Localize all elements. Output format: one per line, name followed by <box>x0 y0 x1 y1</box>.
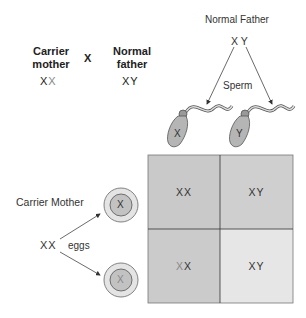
arrow-to-egg-1 <box>60 214 100 239</box>
cell3-b: X <box>184 260 192 272</box>
cell3-a: X <box>176 260 184 272</box>
cell1-a: X <box>176 186 184 198</box>
cell1-b: X <box>184 186 192 198</box>
cell4-b: Y <box>257 260 265 272</box>
mother-left-x2: X <box>48 239 56 251</box>
arrow-to-y-sperm <box>246 47 272 104</box>
punnett-cell-1: XX <box>148 155 220 229</box>
egg-1-label: X <box>117 199 124 210</box>
punnett-cell-3: XX <box>148 229 220 303</box>
cell4-a: X <box>248 260 256 272</box>
sperm-x-icon <box>167 106 232 147</box>
punnett-cell-4: XY <box>220 229 293 303</box>
carrier-mother-title: Carrier Mother <box>16 196 84 208</box>
arrow-to-x-sperm <box>207 47 234 104</box>
arrow-to-egg-2 <box>60 252 100 275</box>
sperm-y-label: Y <box>236 128 243 139</box>
eggs-label: eggs <box>68 240 90 251</box>
egg-2-label: X <box>117 274 124 285</box>
sperm-y-icon <box>229 106 294 147</box>
cell2-b: Y <box>257 186 265 198</box>
sperm-x-label: X <box>174 128 181 139</box>
punnett-cell-2: XY <box>220 155 293 229</box>
cell2-a: X <box>248 186 256 198</box>
mother-genotype-left: XX <box>40 239 57 251</box>
